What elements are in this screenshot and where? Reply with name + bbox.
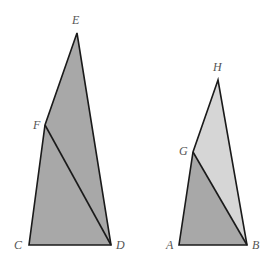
vertex-label-E: E [71, 13, 80, 27]
vertex-label-F: F [32, 118, 41, 132]
vertex-label-D: D [115, 238, 125, 252]
vertex-label-G: G [179, 144, 188, 158]
vertex-label-H: H [212, 60, 223, 74]
vertex-label-B: B [252, 238, 260, 252]
vertex-label-C: C [14, 238, 23, 252]
diagram-canvas: EFCDHGAB [0, 0, 274, 263]
vertex-label-A: A [165, 238, 174, 252]
right-figure: HGAB [165, 60, 260, 252]
triangle-diagram: EFCDHGAB [0, 0, 274, 263]
left-figure: EFCD [14, 13, 125, 252]
